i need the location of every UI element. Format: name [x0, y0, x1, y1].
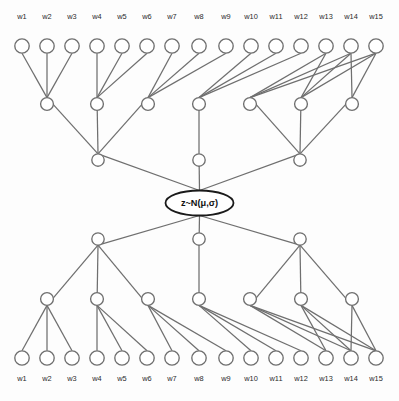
- mid-node-4[interactable]: [193, 98, 206, 111]
- leaf-label-w15: w15: [368, 374, 383, 383]
- edge-leaf-8: [148, 305, 199, 350]
- mid-node-3[interactable]: [142, 98, 155, 111]
- edge-leaf-extra-1: [301, 53, 351, 97]
- leaf-node-w7[interactable]: [165, 351, 179, 365]
- edge-leaf-1: [22, 305, 47, 350]
- edge-leaf-3: [47, 53, 72, 97]
- leaf-node-w12[interactable]: [294, 351, 308, 365]
- leaf-node-w5[interactable]: [115, 39, 129, 53]
- leaf-label-w6: w6: [141, 12, 151, 21]
- top-edge-group: [22, 53, 376, 190]
- leaf-label-w8: w8: [193, 12, 203, 21]
- edge-leaf-10: [199, 305, 251, 350]
- mid-node-3[interactable]: [142, 293, 155, 306]
- edge-leaf-1: [22, 53, 47, 97]
- leaf-node-w9[interactable]: [219, 351, 233, 365]
- leaf-node-w1[interactable]: [15, 351, 29, 365]
- leaf-label-w7: w7: [166, 374, 176, 383]
- edge-leaf-extra-1: [301, 305, 351, 350]
- leaf-label-w8: w8: [193, 374, 203, 383]
- leaf-node-w8[interactable]: [192, 39, 206, 53]
- upper-node-2[interactable]: [193, 154, 205, 166]
- leaf-node-w4[interactable]: [90, 39, 104, 53]
- leaf-node-w6[interactable]: [140, 39, 154, 53]
- edge-root-1: [98, 216, 200, 246]
- leaf-label-w10: w10: [243, 12, 258, 21]
- upper-node-2[interactable]: [193, 233, 205, 245]
- leaf-label-w9: w9: [220, 374, 230, 383]
- leaf-label-w5: w5: [116, 12, 126, 21]
- leaf-node-w1[interactable]: [15, 39, 29, 53]
- edge-mid-7: [300, 98, 352, 154]
- leaf-node-w9[interactable]: [219, 39, 233, 53]
- mid-node-7[interactable]: [346, 293, 359, 306]
- mid-node-7[interactable]: [346, 98, 359, 111]
- edge-mid-3: [98, 245, 148, 305]
- upper-node-3[interactable]: [294, 233, 306, 245]
- edge-mid-7: [300, 245, 352, 305]
- leaf-node-w13[interactable]: [319, 351, 333, 365]
- mid-node-1[interactable]: [41, 293, 54, 306]
- leaf-node-w11[interactable]: [269, 39, 283, 53]
- leaf-label-w1: w1: [16, 374, 26, 383]
- upper-node-1[interactable]: [92, 233, 104, 245]
- leaf-node-w4[interactable]: [90, 351, 104, 365]
- leaf-label-w7: w7: [166, 12, 176, 21]
- leaf-node-w3[interactable]: [65, 351, 79, 365]
- edge-leaf-5: [97, 305, 122, 350]
- leaf-node-w15[interactable]: [369, 351, 383, 365]
- leaf-node-w10[interactable]: [244, 39, 258, 53]
- leaf-node-w14[interactable]: [344, 351, 358, 365]
- leaf-label-w4: w4: [91, 374, 101, 383]
- upper-node-1[interactable]: [92, 154, 104, 166]
- leaf-node-w5[interactable]: [115, 351, 129, 365]
- leaf-label-w15: w15: [368, 12, 383, 21]
- edge-root-3: [200, 216, 301, 246]
- edge-leaf-8: [148, 53, 199, 97]
- leaf-node-w6[interactable]: [140, 351, 154, 365]
- leaf-label-w2: w2: [41, 12, 51, 21]
- leaf-label-w13: w13: [318, 374, 333, 383]
- edge-leaf-5: [97, 53, 122, 97]
- leaf-node-w2[interactable]: [40, 39, 54, 53]
- leaf-node-w13[interactable]: [319, 39, 333, 53]
- latent-label: z~N(μ,σ): [181, 198, 218, 208]
- leaf-label-w6: w6: [141, 374, 151, 383]
- leaf-node-w11[interactable]: [269, 351, 283, 365]
- edge-leaf-6: [97, 305, 147, 350]
- bottom-label-group: w1w2w3w4w5w6w7w8w9w10w11w12w13w14w15: [16, 374, 383, 383]
- leaf-label-w3: w3: [66, 12, 76, 21]
- edge-leaf-3: [47, 305, 72, 350]
- top-label-group: w1w2w3w4w5w6w7w8w9w10w11w12w13w14w15: [16, 12, 383, 21]
- edge-root-1: [98, 154, 200, 191]
- edge-leaf-6: [97, 53, 147, 97]
- leaf-node-w10[interactable]: [244, 351, 258, 365]
- leaf-label-w12: w12: [293, 374, 308, 383]
- mid-node-6[interactable]: [295, 293, 308, 306]
- leaf-node-w8[interactable]: [192, 351, 206, 365]
- mid-node-4[interactable]: [193, 293, 206, 306]
- leaf-label-w11: w11: [268, 12, 282, 21]
- upper-node-3[interactable]: [294, 154, 306, 166]
- leaf-label-w14: w14: [343, 12, 358, 21]
- edge-leaf-extra-3: [351, 53, 352, 97]
- leaf-node-w2[interactable]: [40, 351, 54, 365]
- leaf-node-w7[interactable]: [165, 39, 179, 53]
- mid-node-5[interactable]: [244, 98, 257, 111]
- leaf-label-w11: w11: [268, 374, 282, 383]
- edge-leaf-extra-3: [351, 305, 352, 350]
- mid-node-1[interactable]: [41, 98, 54, 111]
- mid-node-2[interactable]: [91, 98, 104, 111]
- mid-node-2[interactable]: [91, 293, 104, 306]
- leaf-node-w14[interactable]: [344, 39, 358, 53]
- edge-mid-3: [98, 98, 148, 154]
- leaf-node-w12[interactable]: [294, 39, 308, 53]
- leaf-label-w13: w13: [318, 12, 333, 21]
- leaf-node-w15[interactable]: [369, 39, 383, 53]
- leaf-node-w3[interactable]: [65, 39, 79, 53]
- mid-node-5[interactable]: [244, 293, 257, 306]
- mid-node-6[interactable]: [295, 98, 308, 111]
- latent-variable-node[interactable]: z~N(μ,σ): [166, 191, 234, 216]
- leaf-label-w5: w5: [116, 374, 126, 383]
- edge-mid-1: [47, 245, 98, 305]
